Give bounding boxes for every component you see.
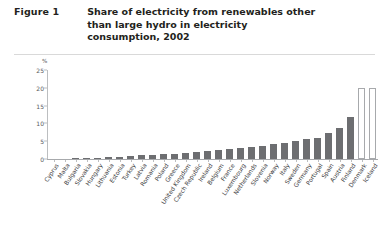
bar	[336, 128, 343, 159]
bar-slot	[279, 70, 290, 159]
x-axis-label-slot: Italy	[279, 161, 290, 223]
bar	[171, 154, 178, 159]
bar-slot	[246, 70, 257, 159]
bar	[237, 148, 244, 159]
x-axis-label-slot: Ireland	[202, 161, 213, 223]
bar-slot	[268, 70, 279, 159]
bar-slot	[114, 70, 125, 159]
bar-slot	[147, 70, 158, 159]
bar	[369, 88, 376, 159]
bar	[314, 138, 321, 159]
y-axis-tick-label: 5	[22, 138, 44, 145]
bar	[248, 147, 255, 159]
x-axis-label-slot: Portugal	[312, 161, 323, 223]
x-axis-label-slot: Estonia	[114, 161, 125, 223]
bar	[215, 150, 222, 159]
x-axis-label-slot: Latvia	[136, 161, 147, 223]
bar	[358, 88, 365, 159]
x-axis-label-slot: Finland	[345, 161, 356, 223]
figure-header: Figure 1 Share of electricity from renew…	[0, 0, 389, 44]
bar	[270, 144, 277, 159]
y-axis-tick-label: 10	[22, 120, 44, 127]
bar-slot	[301, 70, 312, 159]
figure-title: Share of electricity from renewables oth…	[87, 6, 319, 44]
bar-slot	[235, 70, 246, 159]
y-axis-tick-label: 20	[22, 84, 44, 91]
x-axis-label-slot: Austria	[334, 161, 345, 223]
y-axis-tick-mark	[44, 87, 47, 88]
x-axis-label-slot: Bulgaria	[70, 161, 81, 223]
x-axis-label-slot: Iceland	[367, 161, 378, 223]
bar	[259, 146, 266, 159]
bar	[292, 141, 299, 160]
bar	[138, 155, 145, 159]
bar	[204, 151, 211, 159]
x-axis-label-slot: Hungary	[92, 161, 103, 223]
header-divider	[14, 54, 375, 55]
bar	[72, 158, 79, 159]
bar-slot	[180, 70, 191, 159]
bar-slot	[345, 70, 356, 159]
bar-chart: % 0510152025 CyprusMaltaBulgariaSlovakia…	[0, 56, 389, 225]
bar	[149, 155, 156, 159]
bar-slot	[224, 70, 235, 159]
bar	[193, 152, 200, 159]
bar	[347, 117, 354, 159]
x-axis-label-slot: Czech Republic	[191, 161, 202, 223]
bar	[325, 133, 332, 159]
bar	[182, 153, 189, 159]
x-axis-label-slot: Slovakia	[81, 161, 92, 223]
bar	[303, 139, 310, 159]
y-axis-tick-mark	[44, 159, 47, 160]
x-axis-label-slot: Lithuania	[103, 161, 114, 223]
bar-slot	[334, 70, 345, 159]
y-axis-tick-label: 15	[22, 102, 44, 109]
x-axis-label-slot: Norway	[268, 161, 279, 223]
bar-slot	[92, 70, 103, 159]
bar	[105, 157, 112, 159]
bar-slot	[158, 70, 169, 159]
y-axis-tick-label: 0	[22, 156, 44, 163]
bar	[127, 156, 134, 159]
y-axis-tick-mark	[44, 123, 47, 124]
bar-slot	[367, 70, 378, 159]
bar-slot	[81, 70, 92, 159]
y-axis-tick-mark	[44, 105, 47, 106]
x-axis-label-slot: Netherlands	[246, 161, 257, 223]
x-axis-label-slot: Spain	[323, 161, 334, 223]
y-axis-tick-mark	[44, 141, 47, 142]
bar-slot	[103, 70, 114, 159]
x-axis-label-slot: Slovenia	[257, 161, 268, 223]
bar-slot	[136, 70, 147, 159]
bar-slot	[312, 70, 323, 159]
bar-slot	[59, 70, 70, 159]
figure-label: Figure 1	[14, 6, 59, 17]
bar-slot	[125, 70, 136, 159]
y-axis-tick-label: 25	[22, 67, 44, 74]
bar-slot	[323, 70, 334, 159]
bar-slot	[48, 70, 59, 159]
x-axis-label-slot: Cyprus	[48, 161, 59, 223]
x-axis-label-slot: Romania	[147, 161, 158, 223]
bar-slot	[213, 70, 224, 159]
x-axis-label-slot: Turkey	[125, 161, 136, 223]
x-axis-label-slot: Denmark	[356, 161, 367, 223]
bar	[281, 143, 288, 159]
x-axis-label-slot: Germany	[301, 161, 312, 223]
x-axis-label-slot: Sweden	[290, 161, 301, 223]
bar-slot	[257, 70, 268, 159]
bar-slot	[191, 70, 202, 159]
bar-slot	[169, 70, 180, 159]
y-axis-unit-label: %	[42, 58, 47, 64]
bar	[160, 154, 167, 159]
x-axis-label-slot: Malta	[59, 161, 70, 223]
bar-slot	[290, 70, 301, 159]
bar-slot	[356, 70, 367, 159]
bar	[94, 158, 101, 159]
bar-series	[48, 70, 378, 159]
y-axis-tick-mark	[44, 70, 47, 71]
bar	[83, 158, 90, 159]
bar	[226, 149, 233, 159]
x-axis-labels: CyprusMaltaBulgariaSlovakiaHungaryLithua…	[48, 161, 378, 223]
bar-slot	[202, 70, 213, 159]
